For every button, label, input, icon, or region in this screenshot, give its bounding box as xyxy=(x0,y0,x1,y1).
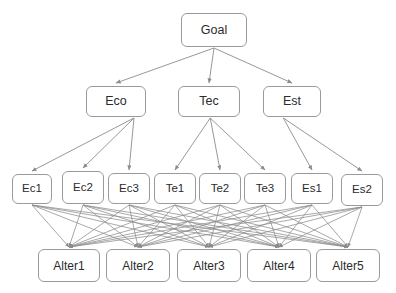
edge-eco-to-ec1 xyxy=(32,118,134,171)
node-label: Te3 xyxy=(256,183,275,195)
node-label: Es1 xyxy=(302,183,322,195)
node-est: Est xyxy=(263,86,321,117)
node-label: Ec3 xyxy=(119,183,139,195)
node-label: Alter4 xyxy=(263,260,294,272)
node-ec1: Ec1 xyxy=(12,174,52,204)
node-alter2: Alter2 xyxy=(106,249,170,282)
node-ec2: Ec2 xyxy=(62,171,104,204)
node-label: Te2 xyxy=(211,183,230,195)
node-te1: Te1 xyxy=(154,173,196,204)
node-label: Alter2 xyxy=(122,260,153,272)
edge-ec1-to-alter4 xyxy=(32,205,279,247)
node-label: Es2 xyxy=(352,184,372,196)
node-label: Tec xyxy=(199,95,218,108)
node-es2: Es2 xyxy=(341,174,383,206)
node-alter5: Alter5 xyxy=(316,249,380,282)
edge-goal-to-eco xyxy=(116,48,214,83)
edge-tec-to-te1 xyxy=(175,118,210,170)
node-label: Te1 xyxy=(166,183,185,195)
edge-te2-to-alter3 xyxy=(209,205,220,247)
edge-est-to-es2 xyxy=(283,118,362,171)
node-label: Alter5 xyxy=(332,260,363,272)
edge-goal-to-tec xyxy=(209,48,214,83)
node-alter3: Alter3 xyxy=(177,249,241,282)
edge-ec1-to-alter1 xyxy=(32,205,69,247)
ahp-hierarchy-diagram: GoalEcoTecEstEc1Ec2Ec3Te1Te2Te3Es1Es2Alt… xyxy=(0,0,396,293)
node-es1: Es1 xyxy=(291,173,333,204)
node-ec3: Ec3 xyxy=(108,173,150,204)
edge-es2-to-alter3 xyxy=(209,207,362,247)
node-label: Eco xyxy=(105,95,127,108)
edge-eco-to-ec3 xyxy=(129,118,134,170)
node-alter4: Alter4 xyxy=(247,249,311,282)
node-alter1: Alter1 xyxy=(38,249,100,282)
node-label: Alter1 xyxy=(53,260,84,272)
edge-est-to-es1 xyxy=(283,118,312,170)
node-label: Alter3 xyxy=(193,260,224,272)
node-te3: Te3 xyxy=(244,173,286,204)
node-goal: Goal xyxy=(181,13,247,47)
node-tec: Tec xyxy=(178,86,240,117)
node-te2: Te2 xyxy=(199,173,241,204)
node-label: Ec1 xyxy=(22,183,42,195)
node-eco: Eco xyxy=(86,86,146,117)
edge-goal-to-est xyxy=(214,48,292,83)
node-label: Goal xyxy=(201,24,227,37)
node-label: Est xyxy=(283,95,301,108)
node-label: Ec2 xyxy=(73,182,93,194)
edge-eco-to-ec2 xyxy=(83,118,134,168)
